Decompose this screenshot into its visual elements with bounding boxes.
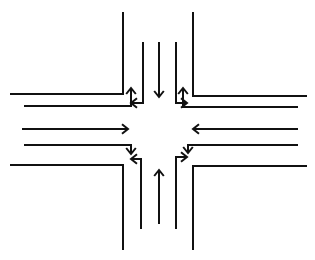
- south-right-turn-arrow-icon: [176, 152, 187, 229]
- west-right-down-arrow-icon: [24, 145, 136, 154]
- north-left-turn-arrow-icon: [131, 42, 143, 108]
- east-turn-down-arrow-icon: [183, 145, 298, 153]
- intersection-svg: [0, 0, 315, 260]
- curb-top-left: [10, 12, 123, 94]
- north-through-southbound-arrow-icon: [154, 42, 164, 97]
- north-right-turn-arrow-icon: [176, 42, 187, 108]
- south-through-northbound-arrow-icon: [154, 170, 164, 224]
- intersection-diagram: [0, 0, 315, 260]
- east-through-westbound-arrow-icon: [193, 124, 298, 134]
- west-through-eastbound-arrow-icon: [22, 124, 128, 134]
- curb-bottom-right: [193, 166, 307, 250]
- curb-top-right: [193, 12, 307, 96]
- west-uturn-up-arrow-icon: [24, 88, 136, 106]
- lane-arrows: [22, 42, 298, 229]
- curb-bottom-left: [10, 165, 123, 250]
- east-turn-up-arrow-icon: [178, 88, 298, 107]
- south-left-turn-arrow-icon: [131, 154, 141, 229]
